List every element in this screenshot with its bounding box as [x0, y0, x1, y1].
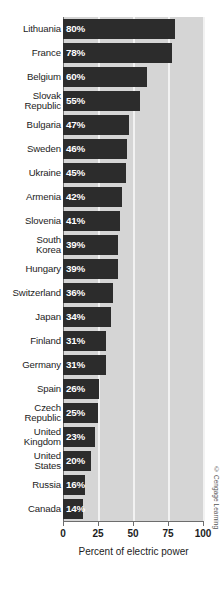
bar-row: Belgium60% — [0, 65, 221, 89]
bar-value-label: 26% — [63, 383, 85, 394]
bar-row: Japan34% — [0, 305, 221, 329]
bar-track: 60% — [63, 65, 221, 89]
x-tick-75 — [168, 521, 169, 526]
bar: 80% — [63, 19, 175, 39]
bar-track: 36% — [63, 281, 221, 305]
bar: 42% — [63, 187, 122, 207]
bar-row: United States20% — [0, 449, 221, 473]
bar-row: Armenia42% — [0, 185, 221, 209]
bar-track: 41% — [63, 209, 221, 233]
bar-row: Finland31% — [0, 329, 221, 353]
category-label: Armenia — [0, 192, 61, 202]
bar: 26% — [63, 379, 99, 399]
bar-value-label: 39% — [63, 263, 85, 274]
category-label: France — [0, 48, 61, 58]
bar: 31% — [63, 331, 106, 351]
x-tick-label-50: 50 — [127, 528, 138, 539]
credit-text: © Cengage Learning — [213, 466, 220, 529]
bar: 36% — [63, 283, 113, 303]
category-label: Belgium — [0, 72, 61, 82]
bar-row: Spain26% — [0, 377, 221, 401]
bar-row: Germany31% — [0, 353, 221, 377]
category-label: Canada — [0, 504, 61, 514]
bar: 41% — [63, 211, 120, 231]
bar-row: Bulgaria47% — [0, 113, 221, 137]
bar-value-label: 14% — [63, 503, 85, 514]
x-tick-25 — [98, 521, 99, 526]
bar: 23% — [63, 427, 95, 447]
bar-track: 23% — [63, 425, 221, 449]
bar-value-label: 39% — [63, 239, 85, 250]
category-label: Spain — [0, 384, 61, 394]
bar-value-label: 20% — [63, 455, 85, 466]
bar: 46% — [63, 139, 127, 159]
category-label: Ukraine — [0, 168, 61, 178]
category-label: United Kingdom — [0, 427, 61, 448]
bar-row: France78% — [0, 41, 221, 65]
bar-value-label: 16% — [63, 479, 85, 490]
category-label: Japan — [0, 312, 61, 322]
bar: 47% — [63, 115, 129, 135]
bar: 31% — [63, 355, 106, 375]
bar-row: Canada14% — [0, 497, 221, 521]
bar-track: 47% — [63, 113, 221, 137]
x-tick-100 — [203, 521, 204, 526]
category-label: Lithuania — [0, 24, 61, 34]
bar-row: Switzerland36% — [0, 281, 221, 305]
bar-track: 39% — [63, 257, 221, 281]
bar-value-label: 47% — [63, 119, 85, 130]
category-label: Slovenia — [0, 216, 61, 226]
bar-value-label: 23% — [63, 431, 85, 442]
bar-value-label: 78% — [63, 47, 85, 58]
bar-chart: Lithuania80%France78%Belgium60%Slovak Re… — [0, 0, 221, 592]
bar-track: 26% — [63, 377, 221, 401]
category-label: Germany — [0, 360, 61, 370]
bar-track: 78% — [63, 41, 221, 65]
category-label: Finland — [0, 336, 61, 346]
bar-row: Hungary39% — [0, 257, 221, 281]
bar-row: United Kingdom23% — [0, 425, 221, 449]
bar-value-label: 25% — [63, 407, 85, 418]
bar-value-label: 80% — [63, 23, 85, 34]
x-tick-label-100: 100 — [195, 528, 212, 539]
bar-track: 31% — [63, 353, 221, 377]
bar-track: 34% — [63, 305, 221, 329]
category-label: Bulgaria — [0, 120, 61, 130]
bar: 14% — [63, 499, 83, 519]
bar-row: Sweden46% — [0, 137, 221, 161]
x-tick-label-75: 75 — [162, 528, 173, 539]
bar-row: Slovenia41% — [0, 209, 221, 233]
bar-track: 42% — [63, 185, 221, 209]
category-label: Sweden — [0, 144, 61, 154]
bar-value-label: 31% — [63, 335, 85, 346]
category-label: Hungary — [0, 264, 61, 274]
x-axis-title: Percent of electric power — [63, 546, 204, 557]
bar-track: 45% — [63, 161, 221, 185]
bar-rows: Lithuania80%France78%Belgium60%Slovak Re… — [0, 17, 221, 521]
x-tick-50 — [133, 521, 134, 526]
bar-track: 80% — [63, 17, 221, 41]
bar-value-label: 42% — [63, 191, 85, 202]
x-tick-label-25: 25 — [92, 528, 103, 539]
bar-value-label: 36% — [63, 287, 85, 298]
category-label: Czech Republic — [0, 403, 61, 424]
bar: 78% — [63, 43, 172, 63]
bar-row: Lithuania80% — [0, 17, 221, 41]
bar-value-label: 41% — [63, 215, 85, 226]
x-tick-label-0: 0 — [60, 528, 66, 539]
bar: 20% — [63, 451, 91, 471]
category-label: Slovak Republic — [0, 91, 61, 112]
category-label: Switzerland — [0, 288, 61, 298]
bar-value-label: 31% — [63, 359, 85, 370]
bar-value-label: 60% — [63, 71, 85, 82]
bar: 39% — [63, 259, 118, 279]
bar: 45% — [63, 163, 126, 183]
bar: 25% — [63, 403, 98, 423]
bar-track: 31% — [63, 329, 221, 353]
bar-track: 46% — [63, 137, 221, 161]
bar-row: Russia16% — [0, 473, 221, 497]
bar: 39% — [63, 235, 118, 255]
bar-row: Czech Republic25% — [0, 401, 221, 425]
bar-track: 39% — [63, 233, 221, 257]
bar: 60% — [63, 67, 147, 87]
